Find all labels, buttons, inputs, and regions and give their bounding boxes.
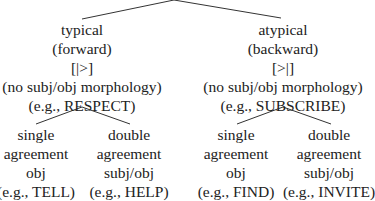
node-example: (e.g., INVITE) <box>283 182 375 201</box>
node-example: (e.g., TELL) <box>0 182 75 201</box>
node-notation: [>|] <box>203 58 362 77</box>
node-typical-double: double agreement subj/obj (e.g., HELP) <box>89 125 168 201</box>
node-atypical-single: single agreement obj (e.g., FIND) <box>198 125 275 201</box>
node-line: agreement <box>198 144 275 163</box>
node-morphology: (no subj/obj morphology) <box>203 77 362 96</box>
node-line: agreement <box>89 144 168 163</box>
node-label: typical <box>2 20 161 39</box>
node-label: atypical <box>203 20 362 39</box>
node-line: agreement <box>0 144 75 163</box>
edge-root-typical <box>82 0 174 19</box>
node-typical-single: single agreement obj (e.g., TELL) <box>0 125 75 201</box>
node-line: subj/obj <box>283 163 375 182</box>
node-line: obj <box>198 163 275 182</box>
node-line: subj/obj <box>89 163 168 182</box>
node-line: double <box>283 125 375 144</box>
node-line: single <box>0 125 75 144</box>
node-line: agreement <box>283 144 375 163</box>
node-notation: [|>] <box>2 58 161 77</box>
node-typical: typical (forward) [|>] (no subj/obj morp… <box>2 20 161 115</box>
node-direction: (backward) <box>203 39 362 58</box>
node-atypical: atypical (backward) [>|] (no subj/obj mo… <box>203 20 362 115</box>
node-line: obj <box>0 163 75 182</box>
node-example: (e.g., FIND) <box>198 182 275 201</box>
node-direction: (forward) <box>2 39 161 58</box>
node-line: single <box>198 125 275 144</box>
node-line: double <box>89 125 168 144</box>
edge-root-atypical <box>174 0 281 18</box>
node-example: (e.g., HELP) <box>89 182 168 201</box>
node-morphology: (no subj/obj morphology) <box>2 77 161 96</box>
node-atypical-double: double agreement subj/obj (e.g., INVITE) <box>283 125 375 201</box>
node-example: (e.g., SUBSCRIBE) <box>203 96 362 115</box>
node-example: (e.g., RESPECT) <box>2 96 161 115</box>
